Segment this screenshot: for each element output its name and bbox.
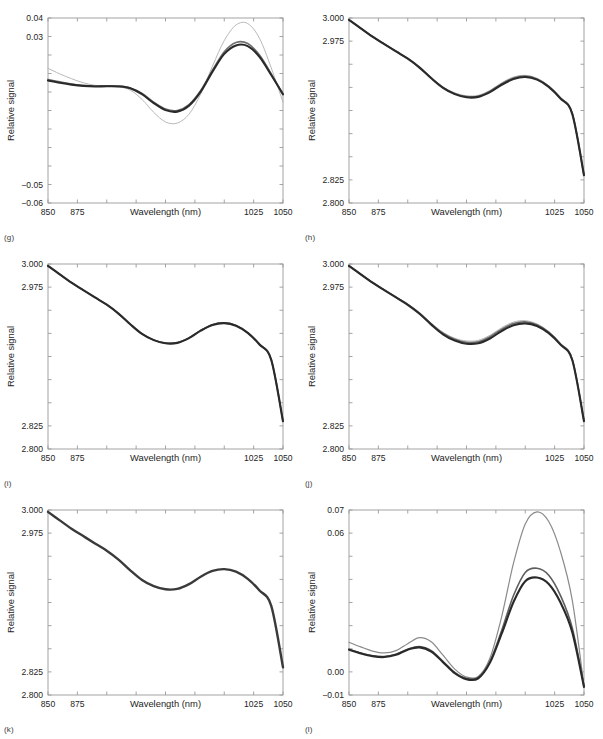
series-line [349, 20, 584, 175]
y-tick-label: 2.975 [21, 528, 43, 538]
y-axis-title: Relative signal [5, 326, 16, 387]
series-line [349, 512, 584, 686]
x-tick-label: 850 [41, 699, 56, 709]
y-tick-label: −0.01 [322, 690, 344, 700]
x-tick-label: 1050 [574, 699, 593, 709]
x-tick-label: 875 [371, 207, 386, 217]
y-tick-label: 2.825 [322, 421, 344, 431]
x-tick-label: 1050 [273, 207, 292, 217]
panel-i: 850875102510502.8002.8252.9753.000Wavele… [0, 246, 301, 492]
panel-h: 850875102510502.8002.8252.9753.000Wavele… [301, 0, 602, 246]
y-tick-label: 3.000 [21, 505, 43, 515]
x-tick-label: 1050 [574, 453, 593, 463]
x-tick-label: 875 [70, 453, 85, 463]
x-axis-title: Wavelength (nm) [130, 698, 201, 709]
x-tick-label: 1025 [244, 207, 263, 217]
x-tick-label: 1025 [545, 699, 564, 709]
series-line [349, 577, 584, 687]
y-tick-label: −0.06 [21, 198, 43, 208]
y-tick-label: 0.06 [327, 528, 344, 538]
y-tick-label: 3.000 [21, 259, 43, 269]
x-tick-label: 850 [342, 453, 357, 463]
x-axis-title: Wavelength (nm) [431, 698, 502, 709]
y-tick-label: 2.800 [21, 444, 43, 454]
panel-caption: (l) [305, 725, 313, 734]
y-tick-label: 2.825 [21, 421, 43, 431]
x-tick-label: 875 [70, 699, 85, 709]
panel-caption: (i) [4, 479, 12, 488]
x-tick-label: 850 [342, 207, 357, 217]
x-tick-label: 1025 [244, 699, 263, 709]
y-axis-title: Relative signal [306, 572, 317, 633]
y-tick-label: 3.000 [322, 13, 344, 23]
y-tick-label: 2.800 [322, 198, 344, 208]
y-tick-label: 0.00 [327, 667, 344, 677]
x-tick-label: 850 [41, 453, 56, 463]
panel-caption: (h) [305, 233, 315, 242]
y-axis-title: Relative signal [5, 80, 16, 141]
panel-g: 85087510251050−0.06−0.050.030.04Waveleng… [0, 0, 301, 246]
series-line [48, 266, 283, 421]
y-axis-title: Relative signal [306, 80, 317, 141]
y-tick-label: 2.800 [322, 444, 344, 454]
series-line [48, 45, 283, 112]
x-axis-title: Wavelength (nm) [431, 206, 502, 217]
x-tick-label: 1025 [545, 207, 564, 217]
x-tick-label: 875 [371, 453, 386, 463]
x-axis-title: Wavelength (nm) [130, 452, 201, 463]
y-tick-label: 2.975 [322, 282, 344, 292]
x-tick-label: 1050 [273, 453, 292, 463]
y-tick-label: 0.07 [327, 505, 344, 515]
y-tick-label: 2.800 [21, 690, 43, 700]
panel-caption: (g) [4, 233, 14, 242]
y-tick-label: 0.04 [26, 13, 43, 23]
x-tick-label: 875 [70, 207, 85, 217]
y-tick-label: 2.975 [322, 36, 344, 46]
series-line [349, 568, 584, 686]
y-tick-label: 0.03 [26, 32, 43, 42]
series-line [48, 512, 283, 667]
x-tick-label: 1050 [574, 207, 593, 217]
y-tick-label: 2.975 [21, 282, 43, 292]
panel-k: 850875102510502.8002.8252.9753.000Wavele… [0, 492, 301, 738]
x-tick-label: 1025 [244, 453, 263, 463]
y-tick-label: −0.05 [21, 180, 43, 190]
series-line [349, 266, 584, 421]
figure-panel-grid: 85087510251050−0.06−0.050.030.04Waveleng… [0, 0, 603, 739]
x-tick-label: 875 [371, 699, 386, 709]
x-axis-title: Wavelength (nm) [130, 206, 201, 217]
x-tick-label: 850 [41, 207, 56, 217]
x-tick-label: 1050 [273, 699, 292, 709]
series-line [48, 42, 283, 111]
y-tick-label: 3.000 [322, 259, 344, 269]
panel-caption: (k) [4, 725, 14, 734]
x-tick-label: 1025 [545, 453, 564, 463]
panel-j: 850875102510502.8002.8252.9753.000Wavele… [301, 246, 602, 492]
x-axis-title: Wavelength (nm) [431, 452, 502, 463]
y-tick-label: 2.825 [322, 175, 344, 185]
y-axis-title: Relative signal [306, 326, 317, 387]
y-tick-label: 2.825 [21, 667, 43, 677]
y-axis-title: Relative signal [5, 572, 16, 633]
panel-caption: (j) [305, 479, 313, 488]
x-tick-label: 850 [342, 699, 357, 709]
panel-l: 85087510251050−0.010.000.060.07Wavelengt… [301, 492, 602, 738]
